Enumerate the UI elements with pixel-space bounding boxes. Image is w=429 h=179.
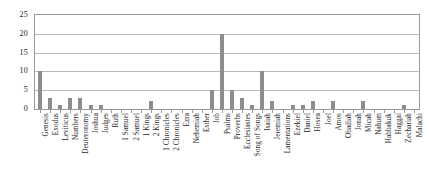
- x-tick-label-text: Ecclesiastes: [245, 113, 252, 149]
- bar-slot: [75, 15, 85, 109]
- x-tick-label: Joshua: [93, 113, 100, 133]
- x-tick-label-text: Psalms: [225, 113, 232, 134]
- x-tick-label-text: Malachi: [417, 113, 424, 137]
- bar: [58, 105, 62, 109]
- bar-slot: [267, 15, 277, 109]
- bar-slot: [187, 15, 197, 109]
- x-tick-label-text: 1 Samuel: [123, 113, 130, 141]
- x-tick-label: Lamentations: [285, 113, 292, 153]
- bar-slot: [45, 15, 55, 109]
- x-tick-label-text: 1 Kings: [144, 113, 151, 136]
- bar: [149, 101, 153, 109]
- x-tick-label: Job: [214, 113, 221, 123]
- x-tick-label: 1 Chronicles: [164, 113, 171, 151]
- x-tick-label: Esther: [204, 113, 211, 132]
- y-tick-label: 5: [24, 86, 28, 94]
- x-tick-label: Song of Songs: [255, 113, 262, 156]
- bar-slot: [389, 15, 399, 109]
- bar: [210, 90, 214, 109]
- bar: [250, 105, 254, 109]
- bar-slot: [338, 15, 348, 109]
- bar: [260, 71, 264, 109]
- x-tick-label: Judges: [103, 113, 110, 133]
- x-axis-labels: GenesisExodusLeviticusNumbersDeuteronomy…: [35, 113, 419, 179]
- bar: [331, 101, 335, 109]
- bar: [78, 98, 82, 109]
- x-tick-label-text: Esther: [204, 113, 211, 132]
- x-tick-label-text: Amos: [336, 113, 343, 131]
- x-tick-label-text: Numbers: [73, 113, 80, 140]
- bar-slot: [55, 15, 65, 109]
- x-tick-label: Haggai: [396, 113, 403, 134]
- x-tick-label-text: Leviticus: [63, 113, 70, 141]
- x-tick-label-text: Nahum: [376, 113, 383, 135]
- x-tick-label-text: Job: [214, 113, 221, 123]
- x-tick-label-text: Ruth: [113, 113, 120, 127]
- bar-slot: [106, 15, 116, 109]
- bar-slot: [409, 15, 419, 109]
- x-tick-label: Jonah: [356, 113, 363, 130]
- x-tick-label: Jeremiah: [275, 113, 282, 140]
- bar-slot: [156, 15, 166, 109]
- bar-slot: [217, 15, 227, 109]
- y-tick-label: 20: [20, 30, 28, 38]
- x-tick-label-text: Isaiah: [265, 113, 272, 131]
- x-tick-label: Micah: [366, 113, 373, 132]
- bar-slot: [368, 15, 378, 109]
- x-tick-label-text: Joshua: [93, 113, 100, 133]
- x-tick-label: Ruth: [113, 113, 120, 127]
- x-tick-label-text: Ezra: [184, 113, 191, 127]
- bar-slot: [116, 15, 126, 109]
- y-tick-label: 10: [20, 67, 28, 75]
- bar-slot: [379, 15, 389, 109]
- x-tick-label-text: Ezekiel: [295, 113, 302, 135]
- bar-slot: [328, 15, 338, 109]
- x-tick-label-text: Joel: [326, 113, 333, 125]
- x-tick-label-text: Jonah: [356, 113, 363, 130]
- x-tick-label: Daniel: [305, 113, 312, 133]
- bar: [240, 98, 244, 109]
- bar-slot: [126, 15, 136, 109]
- y-tick-label: 15: [20, 49, 28, 57]
- x-tick-label-text: 2 Samuel: [134, 113, 141, 141]
- x-tick-label: 1 Samuel: [123, 113, 130, 141]
- x-tick-label-text: Genesis: [43, 113, 50, 136]
- bar-chart: 0510152025 GenesisExodusLeviticusNumbers…: [0, 0, 429, 179]
- bar-slot: [308, 15, 318, 109]
- x-tick-label: Exodus: [53, 113, 60, 135]
- bar-slot: [257, 15, 267, 109]
- x-tick-label-text: Judges: [103, 113, 110, 133]
- bar-slot: [86, 15, 96, 109]
- bar-slot: [358, 15, 368, 109]
- bar-series: [35, 15, 419, 109]
- x-tick-label-text: 2 Kings: [154, 113, 161, 136]
- x-tick-label-text: 2 Chronicles: [174, 113, 181, 151]
- bar: [311, 101, 315, 109]
- x-tick-label: Hosea: [315, 113, 322, 131]
- bar-slot: [399, 15, 409, 109]
- x-tick-label-text: Haggai: [396, 113, 403, 134]
- x-tick-label: Obadiah: [346, 113, 353, 138]
- bar: [402, 105, 406, 109]
- x-tick-label: 1 Kings: [144, 113, 151, 136]
- x-tick-label: Ecclesiastes: [245, 113, 252, 149]
- x-tick-label-text: Habbakuk: [386, 113, 393, 143]
- x-tick-label-text: 1 Chronicles: [164, 113, 171, 151]
- x-tick-label-text: Song of Songs: [255, 113, 262, 156]
- x-tick-label: Amos: [336, 113, 343, 131]
- x-tick-label-text: Lamentations: [285, 113, 292, 153]
- bar-slot: [96, 15, 106, 109]
- bar-slot: [166, 15, 176, 109]
- bar-slot: [176, 15, 186, 109]
- x-tick-label: Deuteronomy: [83, 113, 90, 154]
- bar-slot: [278, 15, 288, 109]
- x-tick-label: Zechariah: [406, 113, 413, 143]
- bar-slot: [298, 15, 308, 109]
- bar: [230, 90, 234, 109]
- bar-slot: [146, 15, 156, 109]
- x-tick-label-text: Zechariah: [406, 113, 413, 143]
- bar: [99, 105, 103, 109]
- x-tick-label: Genesis: [43, 113, 50, 136]
- x-tick-label-text: Daniel: [305, 113, 312, 133]
- x-tick-label: Ezra: [184, 113, 191, 127]
